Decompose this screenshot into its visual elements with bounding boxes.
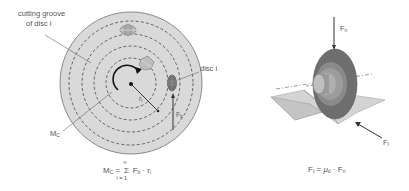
normal-force-label: Fn <box>340 25 347 33</box>
cutting-groove-label: cutting groove <box>18 10 65 18</box>
rolling-force-arrow <box>355 122 382 138</box>
radius-label: ri <box>139 96 142 103</box>
disc-cutter-3d <box>313 49 357 119</box>
moment-label: MC <box>50 130 60 138</box>
rolling-force-label: Ft <box>383 139 389 147</box>
tangential-force-label: Fti <box>176 112 182 119</box>
moment-formula: MC = n Σ i = 1 Fti · ri <box>103 166 151 175</box>
disc-i-label: disc i <box>200 65 217 73</box>
friction-formula: Ft = μd · Fn <box>308 165 345 174</box>
sigma-symbol: n Σ i = 1 <box>122 166 130 175</box>
cutting-groove-label-line2: of disc i <box>26 20 51 28</box>
diagram-canvas <box>0 0 409 191</box>
normal-force-arrow <box>332 17 336 50</box>
